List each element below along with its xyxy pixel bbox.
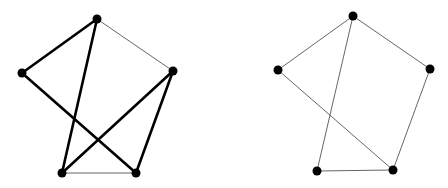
node-right <box>169 67 178 76</box>
node-left <box>18 69 27 78</box>
node-bottom-left <box>313 167 322 176</box>
node-top <box>93 15 102 24</box>
node-bottom-right <box>389 166 398 175</box>
graph-diagram-canvas <box>0 0 448 188</box>
node-bottom-right <box>132 169 141 178</box>
edge-left-bottom-right <box>278 70 393 170</box>
edge-top-bottom-left <box>317 16 353 171</box>
node-top <box>349 12 358 21</box>
graph-left <box>18 15 178 178</box>
node-left <box>274 66 283 75</box>
edge-top-bottom-left <box>62 19 97 173</box>
edge-top-right <box>97 19 173 71</box>
edge-right-bottom-right <box>393 69 430 170</box>
node-right <box>426 65 435 74</box>
edge-bottom-left-bottom-right <box>317 170 393 171</box>
graph-right <box>274 12 435 176</box>
edge-top-right <box>353 16 430 69</box>
node-bottom-left <box>58 169 67 178</box>
edge-top-left <box>278 16 353 70</box>
